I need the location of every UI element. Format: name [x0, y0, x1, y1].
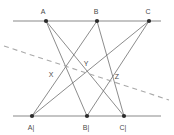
- point-label-a1: A|: [28, 124, 35, 132]
- pappus-theorem-figure: A B C X Y Z A| B| C|: [0, 0, 174, 135]
- point-a: [44, 19, 48, 23]
- point-label-c1: C|: [120, 124, 127, 132]
- point-c1: [122, 114, 126, 118]
- connector-a-c1: [46, 21, 124, 116]
- point-label-z: Z: [115, 73, 120, 80]
- connector-a-b1: [46, 21, 87, 116]
- connector-group: [32, 21, 149, 116]
- connector-c-a1: [32, 21, 149, 116]
- point-b: [95, 19, 99, 23]
- connector-c-b1: [87, 21, 149, 116]
- point-b1: [85, 114, 89, 118]
- connector-b-c1: [97, 21, 124, 116]
- connector-b-a1: [32, 21, 97, 116]
- point-label-b: B: [94, 8, 99, 15]
- point-c: [147, 19, 151, 23]
- pappus-dashed-line: [4, 46, 169, 100]
- point-label-b1: B|: [83, 124, 90, 132]
- point-label-c: C: [145, 8, 150, 15]
- point-label-a: A: [41, 8, 46, 15]
- point-a1: [30, 114, 34, 118]
- point-label-y: Y: [84, 60, 89, 67]
- point-label-x: X: [49, 71, 54, 78]
